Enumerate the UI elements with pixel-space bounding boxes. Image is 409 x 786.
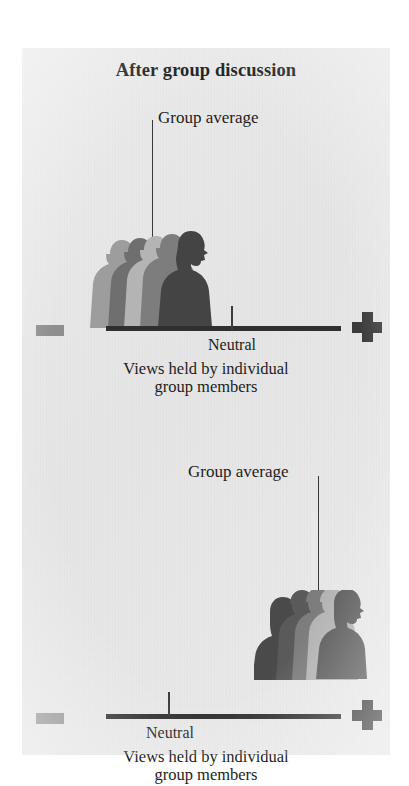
neutral-label-bottom: Neutral [134,724,206,742]
views-label-bottom: Views held by individual group members [76,748,336,784]
figure-panel: After group discussion Group average [22,48,390,755]
opinion-axis-bottom [106,714,341,719]
opinion-axis-top [106,326,341,331]
minus-marker-top [36,325,64,336]
plus-marker-top [352,312,382,342]
neutral-tick-top [231,306,233,330]
group-average-label-top: Group average [158,108,259,128]
views-label-top-line1: Views held by individual [76,360,336,378]
views-label-bottom-line1: Views held by individual [76,748,336,766]
views-label-top: Views held by individual group members [76,360,336,396]
group-average-line-bottom [318,476,319,598]
group-average-line-top [152,120,153,242]
views-label-top-line2: group members [76,378,336,396]
plus-marker-bottom [352,700,382,730]
silhouette-cluster-bottom [254,590,374,680]
views-label-bottom-line2: group members [76,766,336,784]
page-title: After group discussion [22,60,390,81]
group-average-label-bottom: Group average [188,462,289,482]
silhouette-cluster-top [88,230,218,328]
minus-marker-bottom [36,713,64,724]
neutral-label-top: Neutral [196,336,268,354]
neutral-tick-bottom [168,692,170,716]
